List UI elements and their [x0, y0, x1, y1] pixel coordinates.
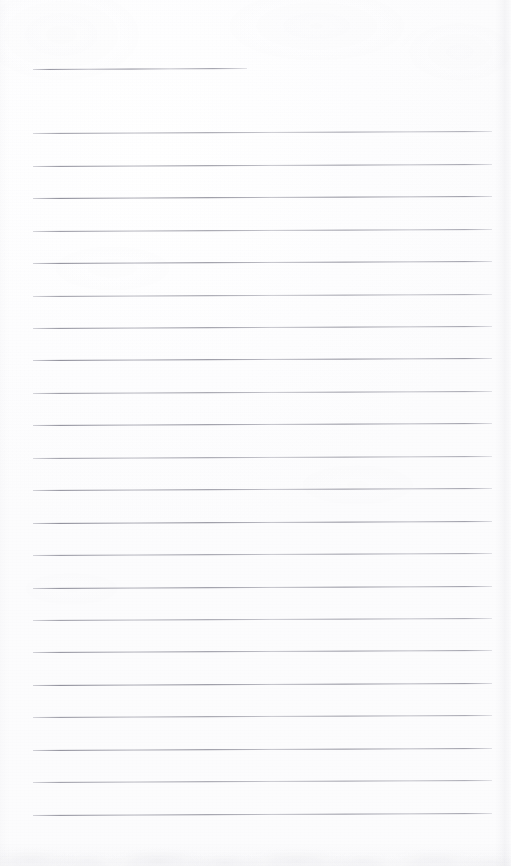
title-rule	[33, 68, 247, 70]
ruled-line	[33, 650, 492, 653]
ruled-line	[33, 521, 492, 524]
scanned-page	[0, 0, 511, 866]
ruled-line	[33, 618, 492, 621]
ruled-line	[33, 488, 492, 491]
ruled-line	[33, 553, 492, 556]
ruled-line	[33, 813, 492, 816]
ruled-line	[33, 261, 492, 264]
ruled-line	[33, 423, 492, 426]
ruled-line	[33, 748, 492, 751]
ruled-line	[33, 456, 492, 459]
ruled-line	[33, 326, 492, 329]
ruled-line	[33, 294, 492, 297]
ruled-lines-layer	[0, 0, 511, 866]
ruled-line	[33, 683, 492, 686]
ruled-line	[33, 358, 492, 361]
ruled-line	[33, 196, 492, 199]
ruled-line	[33, 780, 492, 783]
ruled-line	[33, 586, 492, 589]
ruled-line	[33, 715, 492, 718]
ruled-line	[33, 164, 492, 167]
ruled-line	[33, 391, 492, 394]
page-bottom-smudge	[0, 838, 511, 866]
ruled-line	[33, 229, 492, 232]
ruled-line	[33, 131, 492, 134]
